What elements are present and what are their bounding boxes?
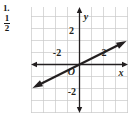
answer-block: 1. 1 2 bbox=[3, 4, 25, 34]
y-tick-label-pos2: 2 bbox=[69, 25, 74, 36]
fraction-denominator: 2 bbox=[4, 24, 10, 33]
problem-number: 1. bbox=[3, 4, 25, 13]
x-tick-label-neg2: -2 bbox=[53, 47, 61, 58]
fraction-numerator: 1 bbox=[4, 14, 10, 23]
graph-figure: 1. 1 2 bbox=[0, 0, 135, 120]
coordinate-plane-svg: -2 2 2 -2 O x y bbox=[31, 7, 128, 113]
slope-fraction: 1 2 bbox=[4, 14, 10, 34]
x-tick-label-pos2: 2 bbox=[102, 47, 107, 58]
coordinate-plane: -2 2 2 -2 O x y bbox=[31, 7, 128, 113]
y-axis-label: y bbox=[83, 11, 89, 22]
origin-label: O bbox=[68, 66, 75, 77]
y-tick-label-neg2: -2 bbox=[68, 86, 76, 97]
x-axis-label: x bbox=[118, 67, 124, 78]
